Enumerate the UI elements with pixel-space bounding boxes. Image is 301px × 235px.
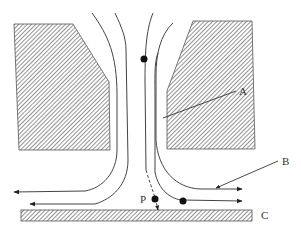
plate-C [21,210,252,221]
label-A: A [239,85,247,97]
particle-P [152,196,159,203]
streamline-center [145,13,153,170]
particle-right [180,198,187,205]
leader-line-B [216,161,278,188]
flow-diagram: A B C P [0,0,301,235]
left-block [14,24,110,150]
particle-upper [141,56,148,63]
label-B: B [282,155,289,167]
label-P: P [140,193,146,205]
label-C: C [261,209,268,221]
